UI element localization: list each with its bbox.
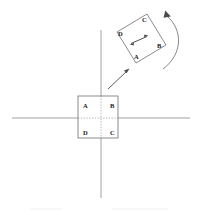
original-vertex-label-c: C [110,129,115,136]
rotated-vertex-label-c: C [142,16,147,23]
translation-arrow-shaft [108,71,127,89]
original-vertex-label-a: A [83,102,88,109]
rotated-vertex-label-a: A [134,53,139,60]
original-square-group: A B C D [78,96,118,138]
inner-double-arrow-shaft [131,37,147,44]
rotation-arc-path [163,16,179,69]
geometry-diagram: A B C D D C B A [0,0,197,215]
coordinate-axes [12,30,190,198]
rotated-vertex-label-d: D [118,30,123,37]
original-vertex-label-d: D [83,129,88,136]
figure-container: A B C D D C B A [0,0,197,215]
rotated-vertex-label-b: B [157,42,162,49]
rotation-arc-arrow-head [164,11,171,18]
inner-double-arrow [129,34,148,45]
rotation-arc-group [163,11,179,70]
translation-arrow-group [108,69,130,90]
original-vertex-label-b: B [110,102,115,109]
rotated-square-group: D C B A [117,14,166,63]
